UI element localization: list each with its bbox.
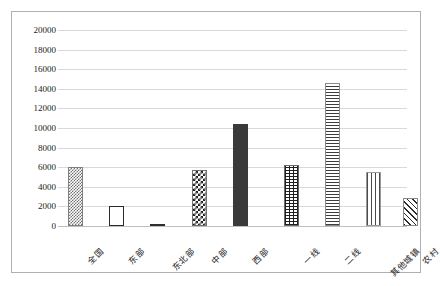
y-axis-tick-label: 12000 bbox=[0, 104, 56, 113]
gridline bbox=[58, 226, 407, 227]
y-axis-tick-label: 2000 bbox=[0, 202, 56, 211]
bar-一线 bbox=[284, 165, 299, 226]
gridline bbox=[58, 69, 407, 70]
y-axis-tick-label: 6000 bbox=[0, 163, 56, 172]
x-axis-tick-label: 二线 bbox=[343, 247, 362, 266]
bar-农村 bbox=[403, 198, 418, 226]
gridline bbox=[58, 50, 407, 51]
bar-中部 bbox=[192, 170, 207, 226]
x-axis-tick-label: 其他城镇 bbox=[390, 247, 422, 279]
x-axis-tick-label: 东北部 bbox=[171, 247, 196, 272]
gridline bbox=[58, 89, 407, 90]
gridline bbox=[58, 30, 407, 31]
y-axis-tick-label: 18000 bbox=[0, 45, 56, 54]
x-axis-tick-label: 农村 bbox=[421, 247, 440, 266]
y-axis-tick-label: 10000 bbox=[0, 124, 56, 133]
bar-东部 bbox=[109, 206, 124, 226]
x-axis-tick-label: 全国 bbox=[86, 247, 105, 266]
plot-area: 0200040006000800010000120001400016000180… bbox=[58, 30, 407, 226]
x-axis-tick-label: 中部 bbox=[210, 247, 229, 266]
bar-西部 bbox=[233, 124, 248, 226]
y-axis-tick-label: 0 bbox=[0, 222, 56, 231]
bar-其他城镇 bbox=[366, 172, 381, 226]
bar-东北部 bbox=[150, 224, 165, 226]
bar-二线 bbox=[325, 83, 340, 226]
y-axis-tick-label: 4000 bbox=[0, 182, 56, 191]
y-axis-tick-label: 14000 bbox=[0, 84, 56, 93]
x-axis-tick-label: 东部 bbox=[127, 247, 146, 266]
chart-frame: 0200040006000800010000120001400016000180… bbox=[11, 11, 421, 273]
y-axis-tick-label: 20000 bbox=[0, 26, 56, 35]
gridline bbox=[58, 108, 407, 109]
y-axis-tick-label: 8000 bbox=[0, 143, 56, 152]
x-axis-tick-label: 一线 bbox=[302, 247, 321, 266]
x-axis-tick-label: 西部 bbox=[251, 247, 270, 266]
y-axis-tick-label: 16000 bbox=[0, 65, 56, 74]
bar-全国 bbox=[68, 167, 83, 226]
